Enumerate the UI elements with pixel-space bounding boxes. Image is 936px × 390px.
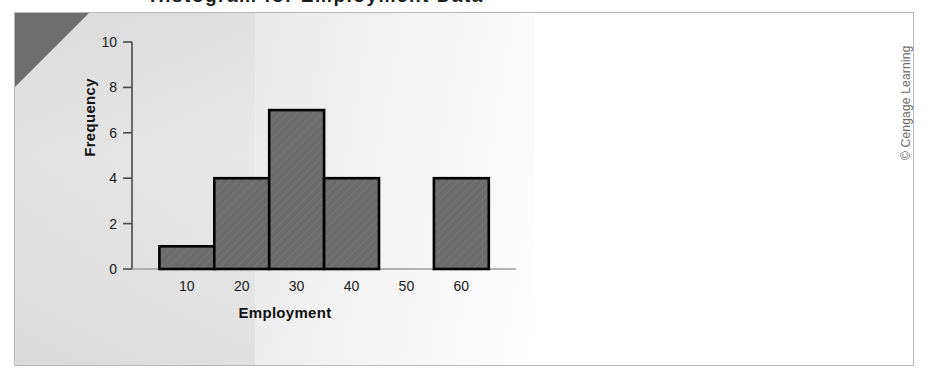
x-axis-title: Employment xyxy=(185,304,385,321)
histogram-bar xyxy=(434,178,489,269)
histogram-svg xyxy=(15,13,913,365)
x-tick-label: 10 xyxy=(167,278,207,294)
x-tick-label: 40 xyxy=(332,278,372,294)
histogram-bar xyxy=(269,110,324,269)
y-axis-title: Frequency xyxy=(81,38,98,198)
cut-off-title-fragment: Histogram for Employment Data xyxy=(0,0,936,11)
x-tick-label: 20 xyxy=(222,278,262,294)
title-fragment-text: Histogram for Employment Data xyxy=(150,0,484,7)
histogram-bar xyxy=(159,246,214,269)
histogram-bar xyxy=(324,178,379,269)
bars-group xyxy=(159,110,488,269)
y-tick-marks xyxy=(123,42,132,269)
x-tick-label: 50 xyxy=(386,278,426,294)
y-tick-label: 2 xyxy=(87,216,117,232)
copyright-notice: © Cengage Learning xyxy=(899,45,913,160)
x-tick-label: 30 xyxy=(277,278,317,294)
x-tick-label: 60 xyxy=(441,278,481,294)
histogram-bar xyxy=(214,178,269,269)
y-tick-label: 0 xyxy=(87,261,117,277)
figure-box: 10 8 6 4 2 0 10 20 30 40 50 60 Frequency… xyxy=(14,12,914,366)
histogram-plot: 10 8 6 4 2 0 10 20 30 40 50 60 Frequency… xyxy=(15,13,913,365)
